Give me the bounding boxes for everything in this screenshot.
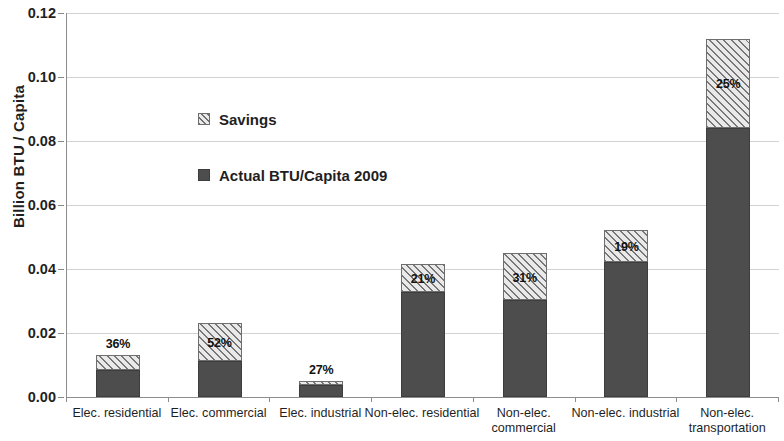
x-axis-label: Elec. residential <box>58 406 176 421</box>
x-axis-label: Non-elec. commercial <box>465 406 583 436</box>
bar-value-label: 25% <box>716 77 740 91</box>
x-axis-labels: Elec. residentialElec. commercialElec. i… <box>66 404 778 441</box>
bar-segment-actual <box>198 361 242 397</box>
y-tick-mark <box>58 269 64 270</box>
y-tick-mark <box>58 141 64 142</box>
y-tick-label: 0.10 <box>0 69 56 85</box>
bar-segment-savings <box>299 381 343 385</box>
chart-legend: Savings Actual BTU/Capita 2009 <box>198 108 498 220</box>
x-tick-mark <box>676 397 677 402</box>
solid-swatch-icon <box>198 169 210 181</box>
x-tick-mark <box>575 397 576 402</box>
x-tick-mark <box>371 397 372 402</box>
y-tick-label: 0.02 <box>0 325 56 341</box>
bar-segment-actual <box>401 292 445 397</box>
x-axis-label: Non-elec. residential <box>363 406 481 421</box>
y-tick-label: 0.04 <box>0 261 56 277</box>
x-tick-mark <box>269 397 270 402</box>
x-tick-mark <box>778 397 779 402</box>
bar-segment-actual <box>604 262 648 397</box>
bar-value-label: 27% <box>309 363 333 377</box>
bar-value-label: 31% <box>512 271 536 285</box>
x-axis-label: Non-elec. industrial <box>567 406 685 421</box>
x-axis-ticks <box>66 397 778 403</box>
y-tick-mark <box>58 333 64 334</box>
y-tick-label: 0.00 <box>0 389 56 405</box>
x-tick-mark <box>168 397 169 402</box>
x-tick-mark <box>473 397 474 402</box>
bar-column <box>96 355 140 397</box>
y-tick-label: 0.08 <box>0 133 56 149</box>
y-tick-mark <box>58 77 64 78</box>
bar-segment-savings <box>96 355 140 370</box>
bar-column <box>604 230 648 397</box>
x-axis-label: Elec. industrial <box>261 406 379 421</box>
bar-chart: Billion BTU / Capita 0.000.020.040.060.0… <box>0 0 784 441</box>
y-tick-mark <box>58 205 64 206</box>
y-tick-mark <box>58 13 64 14</box>
y-axis-ticks: 0.000.020.040.060.080.100.12 <box>0 0 64 441</box>
bar-column <box>299 381 343 397</box>
x-axis-label: Elec. commercial <box>160 406 278 421</box>
bar-value-label: 36% <box>106 337 130 351</box>
bar-segment-actual <box>96 370 140 397</box>
bar-segment-actual <box>706 128 750 397</box>
x-axis-label: Non-elec. transportation <box>668 406 784 436</box>
y-tick-label: 0.12 <box>0 5 56 21</box>
bar-value-label: 19% <box>614 240 638 254</box>
y-tick-mark <box>58 397 64 398</box>
y-tick-label: 0.06 <box>0 197 56 213</box>
bar-column <box>706 39 750 397</box>
bar-value-label: 21% <box>411 272 435 286</box>
bar-segment-actual <box>503 300 547 397</box>
bar-column <box>198 323 242 397</box>
bar-value-label: 52% <box>207 336 231 350</box>
x-tick-mark <box>66 397 67 402</box>
legend-label-savings: Savings <box>219 111 277 128</box>
bar-segment-actual <box>299 385 343 397</box>
legend-item-savings: Savings <box>198 108 498 130</box>
legend-item-actual: Actual BTU/Capita 2009 <box>198 164 498 186</box>
legend-label-actual: Actual BTU/Capita 2009 <box>219 167 387 184</box>
hatched-swatch-icon <box>198 113 210 125</box>
